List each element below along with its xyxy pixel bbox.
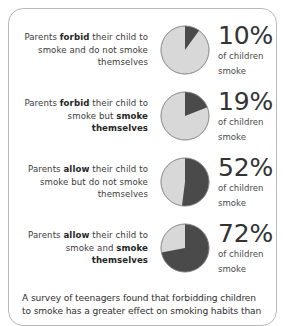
figure-block: 52% of children smoke (213, 155, 273, 208)
figure-block: 72% of children smoke (213, 221, 273, 274)
pie-chart-container (156, 223, 213, 273)
figure-block: 19% of children smoke (213, 89, 273, 142)
statement-text: Parents allow their child to smoke but d… (9, 163, 156, 200)
statement-prefix: Parents (28, 230, 63, 240)
statement-emphasis-1: allow (63, 230, 89, 240)
percentage-caption-line2: smoke (218, 197, 273, 209)
percentage-caption-line1: of children (218, 116, 273, 128)
pie-chart-icon (160, 157, 210, 207)
statistic-row: Parents allow their child to smoke but d… (9, 149, 276, 215)
statistic-row: Parents forbid their child to smoke and … (9, 17, 276, 83)
statement-text: Parents forbid their child to smoke and … (9, 31, 156, 68)
statement-text: Parents forbid their child to smoke but … (9, 97, 156, 134)
pie-chart-container (156, 157, 213, 207)
percentage-caption-line2: smoke (218, 131, 273, 143)
percentage-caption-line2: smoke (218, 65, 273, 77)
statement-emphasis-1: forbid (60, 32, 90, 42)
percentage-caption-line1: of children (218, 50, 273, 62)
percentage-caption-line2: smoke (218, 263, 273, 275)
figure-block: 10% of children smoke (213, 23, 273, 76)
percentage-value: 52% (218, 155, 273, 180)
pie-chart-icon (160, 91, 210, 141)
percentage-caption-line1: of children (218, 248, 273, 260)
percentage-value: 19% (218, 89, 273, 114)
statement-prefix: Parents (24, 32, 59, 42)
infographic-card: Parents forbid their child to smoke and … (8, 8, 277, 326)
statistics-rows: Parents forbid their child to smoke and … (9, 9, 276, 281)
percentage-caption-line1: of children (218, 182, 273, 194)
statement-emphasis-1: allow (63, 164, 89, 174)
statistic-row: Parents allow their child to smoke and s… (9, 215, 276, 281)
percentage-value: 10% (218, 23, 273, 48)
pie-chart-container (156, 25, 213, 75)
statement-emphasis-1: forbid (60, 98, 90, 108)
pie-chart-icon (160, 25, 210, 75)
pie-chart-container (156, 91, 213, 141)
pie-slice-smokers (181, 158, 208, 206)
statement-prefix: Parents (24, 98, 59, 108)
percentage-value: 72% (218, 221, 273, 246)
statement-text: Parents allow their child to smoke and s… (9, 229, 156, 266)
pie-chart-icon (160, 223, 210, 273)
footnote-text: A survey of teenagers found that forbidd… (22, 292, 266, 319)
statistic-row: Parents forbid their child to smoke but … (9, 83, 276, 149)
statement-prefix: Parents (28, 164, 63, 174)
